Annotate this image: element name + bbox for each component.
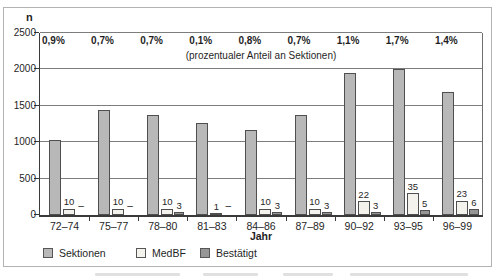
bar-value-label-bestaetigt: 3: [315, 201, 339, 211]
percent-label: 0,7%: [91, 35, 114, 46]
bar-value-label-bestaetigt: 5: [413, 199, 437, 209]
percent-label: 1,1%: [337, 35, 360, 46]
legend-label: Sektionen: [59, 247, 106, 259]
no-value-dash: –: [75, 201, 87, 211]
x-tick: [335, 217, 336, 221]
plot-area: (prozentualer Anteil an Sektionen) 25002…: [40, 33, 482, 215]
legend-label: Bestätigt: [216, 247, 257, 259]
legend: SektionenMedBFBestätigt: [0, 247, 499, 261]
bar-value-label-bestaetigt: 6: [462, 198, 486, 208]
percent-label: 0,1%: [189, 35, 212, 46]
gridline: [40, 68, 482, 69]
x-tick: [433, 217, 434, 221]
chart-subtitle: (prozentualer Anteil an Sektionen): [40, 50, 482, 61]
no-value-dash: –: [222, 201, 234, 211]
x-tick: [236, 217, 237, 221]
bar-medbf: [112, 209, 124, 215]
y-axis-title: n: [26, 11, 33, 23]
gridline: [40, 105, 482, 106]
bar-bestaetigt: [322, 212, 332, 215]
x-tick: [187, 217, 188, 221]
percent-label: 0,7%: [288, 35, 311, 46]
legend-label: MedBF: [152, 247, 186, 259]
legend-item: MedBF: [136, 247, 186, 259]
x-tick: [384, 217, 385, 221]
y-tick-label: 500: [0, 173, 36, 184]
legend-item: Sektionen: [43, 247, 106, 259]
cropped-caption-fragment: [203, 273, 258, 276]
cropped-caption-fragment: [283, 273, 333, 276]
cropped-caption-fragment: [95, 273, 180, 276]
bar-medbf: [63, 209, 75, 215]
x-tick: [89, 217, 90, 221]
bar-sektionen: [393, 69, 405, 215]
legend-swatch-bestätigt: [200, 248, 210, 258]
bar-value-label-medbf: 35: [401, 182, 425, 192]
legend-item: Bestätigt: [200, 247, 257, 259]
x-axis-line: [39, 215, 483, 217]
x-tick: [138, 217, 139, 221]
bar-bestaetigt: [371, 212, 381, 215]
no-value-dash: –: [124, 201, 136, 211]
bar-bestaetigt: [174, 212, 184, 215]
gridline: [40, 32, 482, 33]
x-tick: [286, 217, 287, 221]
percent-label: 0,8%: [238, 35, 261, 46]
bar-bestaetigt: [469, 209, 479, 215]
y-tick-label: 2500: [0, 27, 36, 38]
bar-medbf: [210, 213, 222, 215]
legend-swatch-sektionen: [43, 248, 53, 258]
y-tick-label: 1500: [0, 100, 36, 111]
percent-label: 1,7%: [386, 35, 409, 46]
y-tick-label: 2000: [0, 63, 36, 74]
percent-label: 0,7%: [140, 35, 163, 46]
bar-value-label-medbf: 22: [352, 190, 376, 200]
bar-value-label-bestaetigt: 3: [167, 201, 191, 211]
bar-bestaetigt: [272, 212, 282, 215]
percent-label: 1,4%: [435, 35, 458, 46]
percent-label: 0,9%: [42, 35, 65, 46]
x-axis-title: Jahr: [40, 230, 482, 242]
bar-bestaetigt: [420, 210, 430, 215]
cropped-caption-fragment: [350, 273, 468, 276]
y-tick-label: 1000: [0, 136, 36, 147]
bar-value-label-bestaetigt: 3: [265, 201, 289, 211]
legend-swatch-medbf: [136, 248, 146, 258]
plot-right-border: [482, 33, 483, 216]
y-tick-label: 0: [0, 209, 36, 220]
bar-value-label-bestaetigt: 3: [364, 201, 388, 211]
figure-canvas: n (prozentualer Anteil an Sektionen) 250…: [0, 0, 499, 277]
